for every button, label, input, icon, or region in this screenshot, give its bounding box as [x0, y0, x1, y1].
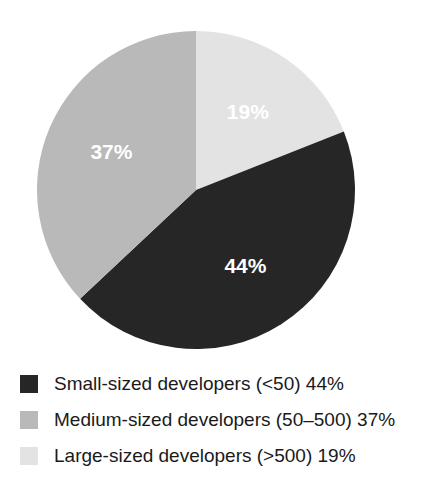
pie-label-medium: 37% [90, 140, 132, 163]
pie-chart-svg: 19% 44% 37% [37, 31, 355, 349]
pie-chart-figure: 19% 44% 37% Small-sized developers (<50)… [0, 0, 436, 495]
legend-label-small: Small-sized developers (<50) 44% [54, 373, 344, 395]
pie-chart-plot-area: 19% 44% 37% [37, 31, 355, 349]
chart-legend: Small-sized developers (<50) 44% Medium-… [20, 366, 430, 474]
legend-item-medium[interactable]: Medium-sized developers (50–500) 37% [20, 402, 430, 438]
legend-label-medium: Medium-sized developers (50–500) 37% [54, 409, 395, 431]
pie-label-large: 19% [227, 100, 269, 123]
pie-label-small: 44% [224, 254, 266, 277]
legend-label-large: Large-sized developers (>500) 19% [54, 445, 356, 467]
legend-item-large[interactable]: Large-sized developers (>500) 19% [20, 438, 430, 474]
legend-item-small[interactable]: Small-sized developers (<50) 44% [20, 366, 430, 402]
legend-swatch-large-icon [20, 447, 38, 465]
legend-swatch-medium-icon [20, 411, 38, 429]
legend-swatch-small-icon [20, 375, 38, 393]
